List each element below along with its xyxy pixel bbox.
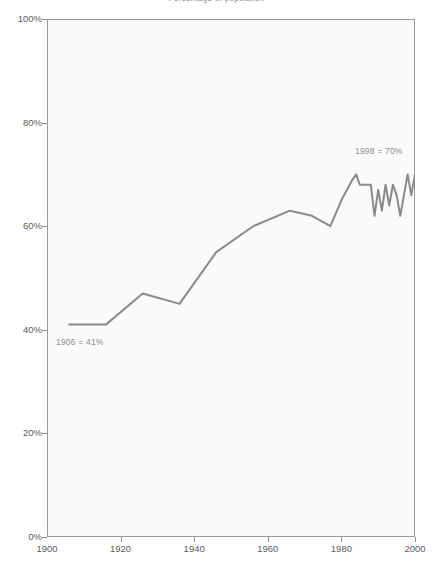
- x-tick-mark: [341, 537, 342, 542]
- x-tick-label: 1980: [316, 543, 366, 554]
- x-tick-label: 1920: [96, 543, 146, 554]
- x-axis: 190019201940196019802000: [0, 0, 433, 572]
- x-tick-mark: [194, 537, 195, 542]
- x-tick-label: 1900: [22, 543, 72, 554]
- x-tick-label: 2000: [390, 543, 433, 554]
- x-tick-mark: [121, 537, 122, 542]
- x-tick-label: 1960: [243, 543, 293, 554]
- chart-figure: Percentage of population 0%20%40%60%80%1…: [0, 0, 433, 572]
- annotation-end-value: 1998 = 70%: [355, 146, 403, 156]
- x-tick-mark: [268, 537, 269, 542]
- annotation-start-value: 1906 = 41%: [56, 337, 104, 347]
- x-tick-mark: [415, 537, 416, 542]
- x-tick-label: 1940: [169, 543, 219, 554]
